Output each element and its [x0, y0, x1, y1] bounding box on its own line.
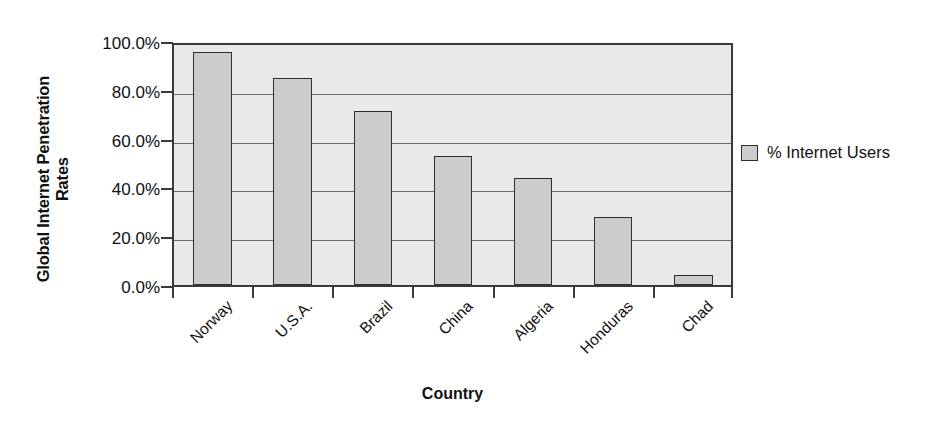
bar-slot	[414, 45, 494, 285]
bar[interactable]	[273, 78, 311, 285]
bar-slot	[575, 45, 655, 285]
x-axis-tick-mark	[412, 287, 414, 298]
y-axis-tick-label: 100.0%	[48, 35, 160, 52]
bar[interactable]	[594, 217, 632, 285]
bar[interactable]	[434, 156, 472, 285]
x-axis-tick-mark	[493, 287, 495, 298]
y-axis-tick-label: 60.0%	[48, 132, 160, 149]
legend: % Internet Users	[741, 143, 890, 162]
x-axis-tick-mark	[731, 287, 733, 298]
bar[interactable]	[354, 111, 392, 285]
x-axis-tick-mark	[653, 287, 655, 298]
x-axis-tick-mark	[573, 287, 575, 298]
legend-swatch-icon	[741, 145, 758, 161]
x-axis-tick-mark	[172, 287, 174, 298]
bar[interactable]	[193, 52, 231, 285]
y-axis-tick-label: 0.0%	[48, 279, 160, 296]
y-axis-tick-label: 20.0%	[48, 230, 160, 247]
bar-slot	[174, 45, 254, 285]
x-axis-title: Country	[172, 385, 733, 403]
x-axis-ticks	[172, 287, 733, 298]
bars-layer	[174, 45, 731, 285]
plot-area	[172, 43, 733, 287]
x-axis-tick-mark	[332, 287, 334, 298]
bar-slot	[655, 45, 735, 285]
bar-slot	[254, 45, 334, 285]
y-axis-tick-label: 40.0%	[48, 181, 160, 198]
bar-chart: Global Internet Penetration Rates 0.0%20…	[0, 0, 950, 427]
x-axis-tick-label: Norway	[187, 298, 235, 346]
y-axis-tick-labels: 0.0%20.0%40.0%60.0%80.0%100.0%	[48, 43, 160, 287]
legend-label: % Internet Users	[767, 143, 890, 162]
bar[interactable]	[514, 178, 552, 285]
bar-slot	[495, 45, 575, 285]
bar[interactable]	[674, 275, 712, 285]
y-axis-tick-label: 80.0%	[48, 83, 160, 100]
bar-slot	[334, 45, 414, 285]
x-axis-tick-mark	[252, 287, 254, 298]
x-axis-tick-labels: NorwayU.S.A.BrazilChinaAlgeriaHondurasCh…	[172, 298, 733, 378]
